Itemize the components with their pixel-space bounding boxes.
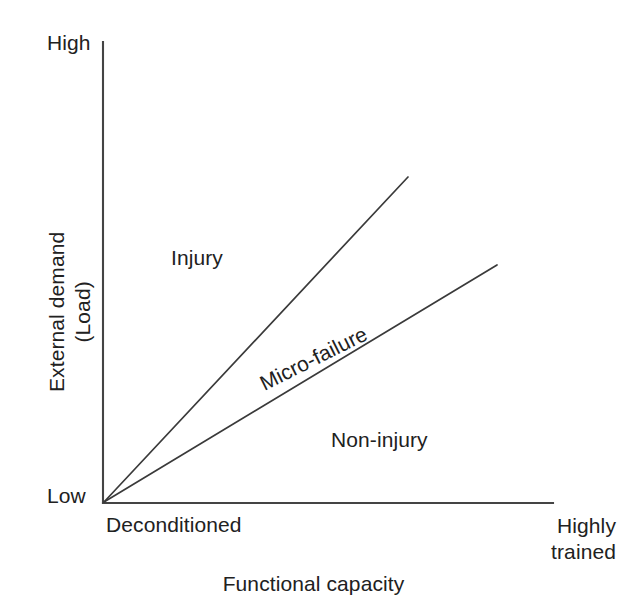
- x-axis-max-label-line1: Highly: [557, 514, 616, 537]
- chart-figure: High Low Deconditioned Highlytrained Ext…: [0, 0, 627, 616]
- y-axis-min-label: Low: [47, 484, 86, 508]
- x-axis-max-label: Highlytrained: [551, 513, 616, 564]
- y-axis-title-line2: (Load): [71, 281, 94, 342]
- x-axis-title: Functional capacity: [0, 572, 627, 596]
- x-axis-min-label: Deconditioned: [106, 513, 242, 537]
- micro-failure-threshold-line: [104, 265, 497, 502]
- y-axis-title-line1: External demand: [45, 232, 68, 392]
- y-axis-title: External demand(Load): [44, 232, 95, 392]
- y-axis-max-label: High: [47, 31, 91, 55]
- region-label-injury: Injury: [171, 246, 223, 270]
- x-axis-max-label-line2: trained: [551, 540, 616, 563]
- region-label-non-injury: Non-injury: [331, 428, 428, 452]
